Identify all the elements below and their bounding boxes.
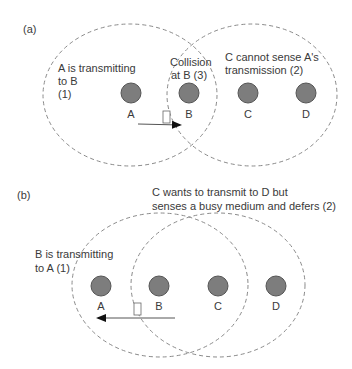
annotation-c-wants-2: senses a busy medium and defers (2) xyxy=(152,200,336,213)
annotation-collision-2: at B (3) xyxy=(171,69,207,82)
node-b-panel-a xyxy=(179,83,199,103)
node-a-panel-a xyxy=(121,83,141,103)
panel-a-tag: (a) xyxy=(23,23,36,36)
node-d-panel-a xyxy=(296,83,316,103)
annotation-a-transmitting-3: (1) xyxy=(58,88,71,101)
node-c-panel-b xyxy=(208,276,228,296)
node-label-a-panel-a: A xyxy=(123,108,139,120)
annotation-c-wants-1: C wants to transmit to D but xyxy=(152,186,288,199)
transmission-arrow-a-to-b xyxy=(138,124,180,125)
node-b-panel-b xyxy=(149,276,169,296)
node-label-a-panel-b: A xyxy=(93,300,109,312)
node-a-panel-b xyxy=(91,276,111,296)
annotation-a-transmitting-1: A is transmitting xyxy=(58,62,136,75)
node-label-b-panel-a: B xyxy=(181,108,197,120)
frame-icon-panel-b xyxy=(134,303,141,315)
annotation-c-cannot-2: transmission (2) xyxy=(225,64,303,77)
node-label-d-panel-a: D xyxy=(298,108,314,120)
node-label-d-panel-b: D xyxy=(268,300,284,312)
node-label-c-panel-b: C xyxy=(210,300,226,312)
annotation-b-transmitting-1: B is transmitting xyxy=(35,248,113,261)
annotation-collision-1: Collision xyxy=(170,56,212,69)
annotation-c-cannot-1: C cannot sense A's xyxy=(225,51,319,64)
node-c-panel-a xyxy=(238,83,258,103)
node-label-c-panel-a: C xyxy=(240,108,256,120)
frame-icon-panel-a xyxy=(163,111,170,123)
node-d-panel-b xyxy=(266,276,286,296)
node-label-b-panel-b: B xyxy=(151,300,167,312)
annotation-b-transmitting-2: to A (1) xyxy=(35,262,70,275)
annotation-a-transmitting-2: to B xyxy=(58,75,78,88)
panel-b-tag: (b) xyxy=(17,189,30,202)
